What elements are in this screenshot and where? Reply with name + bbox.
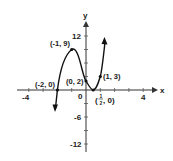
y-tick-label-12: 12 [72,32,81,41]
point-neg1-9 [70,48,73,51]
function-graph: x y -4 4 12 -6 -12 0 (-2, 0) ( [0,0,173,161]
point-half-0 [92,88,95,91]
origin-label: 0 [78,92,83,101]
x-tick-label-4: 4 [141,93,146,102]
point-label-half-0: ( 1 2 , 0) [95,93,115,106]
svg-text:(: ( [95,96,98,105]
x-axis-arrow-icon [152,87,158,93]
y-tick-label-neg12: -12 [70,140,82,149]
y-axis-arrow-icon [83,21,89,27]
point-label-neg1-9: (-1, 9) [50,39,71,48]
point-label-neg2-0: (-2, 0) [35,80,56,89]
curve-arrow-down-icon [53,105,59,113]
point-label-0-2: (0, 2) [66,77,84,86]
point-0-2 [84,79,87,82]
svg-text:, 0): , 0) [103,96,115,105]
y-axis-label: y [83,11,88,20]
curve-arrow-up-icon [102,37,108,45]
y-tick-label-neg6: -6 [74,113,82,122]
x-tick-label-neg4: -4 [22,93,30,102]
point-neg2-0 [56,88,59,91]
point-label-1-3: (1, 3) [103,72,121,81]
point-1-3 [99,75,102,78]
x-axis-label: x [160,86,165,95]
